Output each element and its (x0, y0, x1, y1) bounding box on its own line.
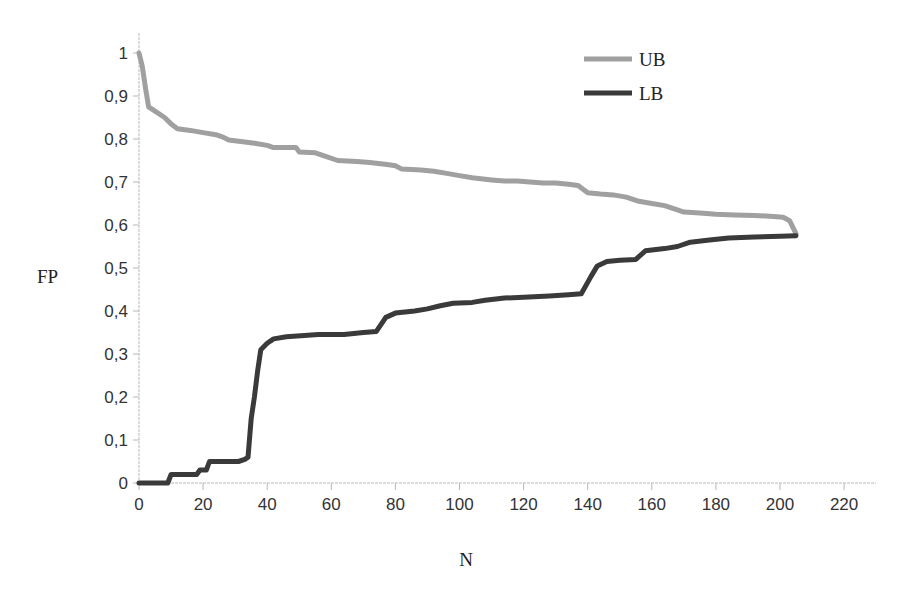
legend: UB LB (584, 49, 665, 104)
x-axis-title: N (459, 549, 473, 570)
y-tick-label: 0,9 (104, 87, 128, 106)
x-axis-ticks: 020406080100120140160180200220 (134, 483, 858, 514)
x-tick-label: 80 (386, 495, 405, 514)
y-tick-label: 0 (119, 474, 128, 493)
y-tick-label: 0,7 (104, 173, 128, 192)
x-tick-label: 60 (322, 495, 341, 514)
x-tick-label: 40 (258, 495, 277, 514)
y-tick-label: 1 (119, 44, 128, 63)
x-tick-label: 0 (134, 495, 143, 514)
x-tick-label: 120 (509, 495, 537, 514)
y-tick-label: 0,6 (104, 216, 128, 235)
y-axis-title: FP (37, 266, 58, 287)
x-tick-label: 180 (702, 495, 730, 514)
y-axis-ticks: 00,10,20,30,40,50,60,70,80,91 (104, 44, 139, 493)
series-ub-line (139, 53, 796, 234)
line-chart: 00,10,20,30,40,50,60,70,80,91 0204060801… (0, 0, 908, 598)
y-tick-label: 0,8 (104, 130, 128, 149)
x-tick-label: 220 (830, 495, 858, 514)
series-lb-line (139, 236, 796, 483)
y-tick-label: 0,2 (104, 388, 128, 407)
x-tick-label: 200 (766, 495, 794, 514)
legend-ub-label: UB (639, 49, 665, 70)
legend-lb-label: LB (639, 83, 663, 104)
y-tick-label: 0,1 (104, 431, 128, 450)
x-tick-label: 140 (574, 495, 602, 514)
y-tick-label: 0,4 (104, 302, 128, 321)
x-tick-label: 160 (638, 495, 666, 514)
x-tick-label: 100 (445, 495, 473, 514)
x-tick-label: 20 (194, 495, 213, 514)
y-tick-label: 0,3 (104, 345, 128, 364)
y-tick-label: 0,5 (104, 259, 128, 278)
